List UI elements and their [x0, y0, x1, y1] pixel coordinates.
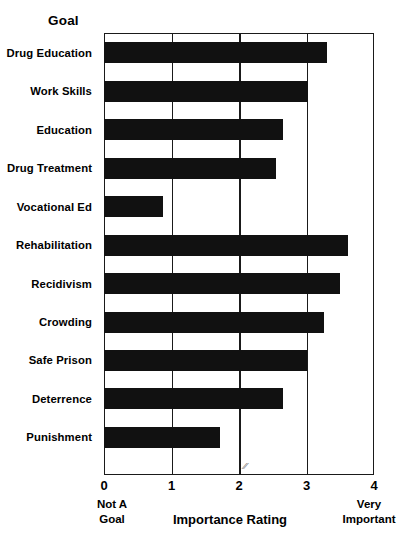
category-label: Work Skills [30, 85, 92, 97]
x-axis-right-caption-line2: Important [318, 512, 404, 527]
bar [104, 81, 308, 102]
bar [104, 158, 276, 179]
x-axis-right-caption: Very Important [332, 497, 404, 527]
x-tick-label: 4 [370, 478, 377, 493]
x-tick-label: 3 [303, 478, 310, 493]
bar [104, 196, 163, 217]
bar-row [104, 81, 374, 102]
category-label: Education [36, 124, 92, 136]
bar-row [104, 312, 374, 333]
bar [104, 119, 283, 140]
category-label: Vocational Ed [17, 201, 92, 213]
x-axis-left-caption-line2: Goal [76, 512, 148, 527]
category-label: Crowding [39, 316, 92, 328]
bar [104, 273, 340, 294]
x-tick-label: 0 [100, 478, 107, 493]
bar-row [104, 427, 374, 448]
bar-row [104, 235, 374, 256]
x-axis-title: Importance Rating [150, 512, 310, 527]
category-labels: Drug EducationWork SkillsEducationDrug T… [0, 33, 98, 475]
x-axis-right-caption-line1: Very [318, 497, 404, 512]
y-axis-title: Goal [48, 13, 79, 28]
category-label: Punishment [26, 431, 92, 443]
bar-row [104, 273, 374, 294]
category-label: Rehabilitation [16, 239, 92, 251]
bar [104, 235, 348, 256]
x-tick-label: 2 [235, 478, 242, 493]
bar [104, 42, 327, 63]
category-label: Drug Treatment [7, 162, 92, 174]
bar-row [104, 350, 374, 371]
bar-row [104, 388, 374, 409]
bar-chart: Goal Drug EducationWork SkillsEducationD… [0, 0, 404, 543]
bars-container [104, 33, 374, 475]
category-label: Safe Prison [29, 354, 92, 366]
bar-row [104, 196, 374, 217]
x-axis-left-caption: Not A Goal [76, 497, 148, 527]
bar [104, 427, 220, 448]
scan-artifact: ⁄⁄ [244, 461, 249, 470]
category-label: Drug Education [7, 47, 93, 59]
bar [104, 312, 324, 333]
category-label: Recidivism [31, 278, 92, 290]
bar [104, 350, 307, 371]
bar-row [104, 42, 374, 63]
x-axis-left-caption-line1: Not A [76, 497, 148, 512]
bar-row [104, 158, 374, 179]
x-tick-label: 1 [168, 478, 175, 493]
category-label: Deterrence [32, 393, 92, 405]
bar-row [104, 119, 374, 140]
bar [104, 388, 283, 409]
